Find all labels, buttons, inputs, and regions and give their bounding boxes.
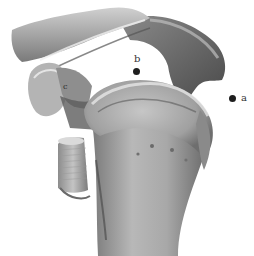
marker-a-dot: [229, 95, 236, 102]
marker-b-label: b: [134, 54, 140, 64]
marker-b-dot: [133, 68, 140, 75]
marker-a-label: a: [241, 93, 247, 103]
shoulder-rendering: [0, 0, 254, 256]
implant-cylinder: [58, 137, 88, 193]
marker-c-label: c: [63, 83, 67, 91]
shoulder-figure: a b c: [0, 0, 254, 256]
